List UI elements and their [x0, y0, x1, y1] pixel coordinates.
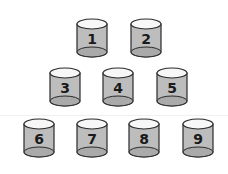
cylinder-base [50, 96, 80, 106]
cylinder-base [103, 96, 133, 106]
cylinder-top [183, 119, 213, 129]
cylinder-6: 6 [24, 119, 54, 157]
cylinders-canvas: 123456789 [0, 0, 228, 174]
cylinder-top [157, 68, 187, 78]
cylinder-base [131, 47, 161, 57]
cylinder-base [157, 96, 187, 106]
cylinder-8: 8 [129, 119, 159, 157]
cylinder-7: 7 [77, 119, 107, 157]
cylinder-label: 2 [141, 31, 151, 47]
cylinder-1: 1 [77, 19, 107, 57]
cylinder-label: 7 [87, 131, 97, 147]
cylinder-base [77, 47, 107, 57]
cylinder-label: 4 [113, 80, 123, 96]
cylinder-label: 8 [139, 131, 149, 147]
cylinder-top [50, 68, 80, 78]
cylinder-top [77, 119, 107, 129]
cylinder-5: 5 [157, 68, 187, 106]
cylinder-top [24, 119, 54, 129]
cylinder-top [129, 119, 159, 129]
cylinder-3: 3 [50, 68, 80, 106]
cylinder-base [183, 147, 213, 157]
cylinder-label: 5 [167, 80, 177, 96]
cylinder-top [103, 68, 133, 78]
cylinder-label: 6 [34, 131, 44, 147]
cylinder-top [131, 19, 161, 29]
cylinder-base [24, 147, 54, 157]
cylinder-top [77, 19, 107, 29]
cylinder-base [129, 147, 159, 157]
cylinder-9: 9 [183, 119, 213, 157]
cylinder-2: 2 [131, 19, 161, 57]
cylinder-4: 4 [103, 68, 133, 106]
cylinder-diagram: 123456789 [0, 0, 228, 174]
cylinder-base [77, 147, 107, 157]
cylinder-label: 3 [60, 80, 70, 96]
cylinder-label: 9 [193, 131, 203, 147]
cylinder-label: 1 [87, 31, 97, 47]
